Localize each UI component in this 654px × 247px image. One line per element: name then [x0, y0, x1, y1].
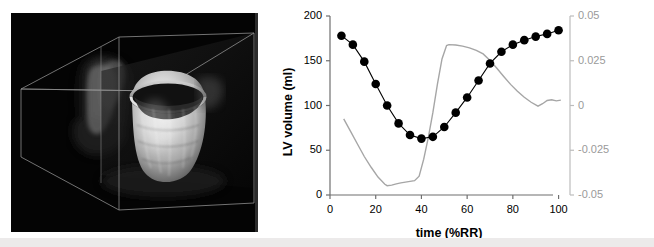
y2-tick-label: 0.05	[578, 9, 599, 21]
y-tick-label: 200	[264, 9, 322, 21]
page-band	[0, 238, 654, 247]
panel-edge-shadow	[255, 13, 258, 232]
y-tick-label: 0	[264, 188, 322, 200]
figure-root: 050100150200 020406080100 -0.05-0.02500.…	[0, 0, 654, 247]
volume-render-canvas	[11, 13, 258, 232]
lv-volume-chart: 050100150200 020406080100 -0.05-0.02500.…	[264, 0, 654, 247]
data-point	[383, 101, 392, 110]
data-point	[394, 119, 403, 128]
x-tick-label: 40	[401, 203, 441, 215]
data-point	[440, 123, 449, 132]
data-point	[406, 131, 415, 140]
data-point	[337, 31, 346, 40]
data-point	[554, 26, 563, 35]
x-tick-label: 60	[447, 203, 487, 215]
data-point	[463, 93, 472, 102]
data-point	[474, 76, 483, 85]
data-point	[360, 57, 369, 66]
data-point	[371, 80, 380, 89]
y-axis-title-left: LV volume (ml)	[281, 42, 295, 182]
data-point	[429, 133, 438, 142]
x-tick-label: 0	[310, 203, 350, 215]
y2-tick-label: 0.025	[578, 54, 606, 66]
data-point	[543, 30, 552, 39]
data-point	[531, 32, 540, 41]
data-point	[520, 36, 529, 45]
y2-tick-label: -0.05	[578, 188, 603, 200]
data-point	[417, 134, 426, 143]
3d-lv-volume-rendering	[11, 13, 258, 232]
data-point	[497, 48, 506, 57]
x-tick-label: 80	[493, 203, 533, 215]
data-point	[486, 59, 495, 68]
x-tick-label: 100	[539, 203, 579, 215]
x-tick-label: 20	[356, 203, 396, 215]
data-point	[509, 40, 518, 49]
y2-tick-label: 0	[578, 99, 584, 111]
data-point	[451, 108, 460, 117]
data-point	[349, 40, 358, 49]
y2-tick-label: -0.025	[578, 143, 609, 155]
